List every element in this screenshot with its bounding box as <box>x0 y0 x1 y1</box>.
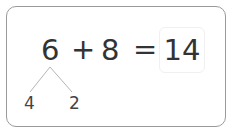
branch-right <box>50 67 72 92</box>
part-left: 4 <box>24 95 35 112</box>
part-right: 2 <box>69 95 80 112</box>
branch-left <box>30 67 50 92</box>
